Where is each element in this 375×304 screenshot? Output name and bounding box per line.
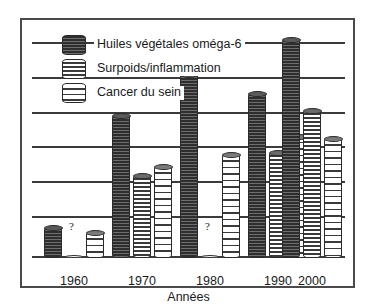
x-tick-1960: 1960 <box>39 274 109 288</box>
bar-cap <box>282 37 301 43</box>
chart-figure-frame: ? ? <box>20 18 355 288</box>
bar-cap <box>248 91 267 97</box>
bar-omega-1970 <box>112 115 130 258</box>
legend-label-omega: Huiles végétales oméga-6 <box>94 38 245 52</box>
bar-surpoids-2000 <box>303 110 321 258</box>
legend-swatch-surpoids-icon <box>62 59 86 79</box>
bar-cap <box>86 230 105 236</box>
bar-omega-2000 <box>282 39 300 258</box>
bar-cap <box>303 108 322 114</box>
legend-label-cancer: Cancer du sein <box>94 86 184 100</box>
missing-marker-surpoids-1960: ? <box>69 221 74 232</box>
x-axis-title: Années <box>32 290 345 304</box>
bar-stub-surpoids-1960 <box>65 255 83 258</box>
bar-cap <box>112 113 131 119</box>
bar-group-2000 <box>282 30 342 258</box>
bar-cap <box>222 152 241 158</box>
legend-swatch-omega-icon <box>62 35 86 55</box>
chart-legend: Huiles végétales oméga-6 Surpoids/inflam… <box>62 34 245 106</box>
x-tick-1970: 1970 <box>107 274 177 288</box>
bar-surpoids-1970 <box>133 175 151 258</box>
legend-item-omega: Huiles végétales oméga-6 <box>62 34 245 56</box>
bar-cancer-1980 <box>222 154 240 258</box>
legend-item-cancer: Cancer du sein <box>62 82 245 104</box>
missing-marker-surpoids-1980: ? <box>205 221 210 232</box>
bar-cap <box>133 173 152 179</box>
bar-cap <box>324 136 343 142</box>
bar-omega-1960 <box>44 227 62 258</box>
bar-cancer-1970 <box>154 166 172 258</box>
bar-cap <box>44 225 63 231</box>
legend-label-surpoids: Surpoids/inflammation <box>94 62 224 76</box>
bar-stub-surpoids-1980 <box>201 255 219 258</box>
legend-item-surpoids: Surpoids/inflammation <box>62 58 245 80</box>
bar-cap <box>154 164 173 170</box>
legend-swatch-cancer-icon <box>62 83 86 103</box>
bar-cancer-2000 <box>324 138 342 258</box>
x-tick-1980: 1980 <box>175 274 245 288</box>
bar-cancer-1960 <box>86 232 104 258</box>
x-tick-2000: 2000 <box>277 274 347 288</box>
bar-omega-1990 <box>248 93 266 258</box>
